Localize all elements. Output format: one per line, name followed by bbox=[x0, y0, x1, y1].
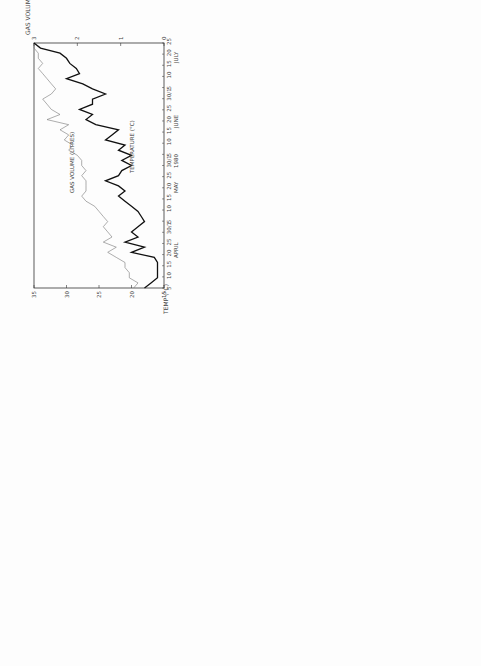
fig2-chart: 1520253035012351015202530/151015202530/1… bbox=[14, 18, 204, 318]
month-label: APRIL bbox=[173, 241, 179, 258]
x-tick-label: 10 bbox=[166, 138, 172, 145]
x-tick-label: 15 bbox=[166, 193, 172, 200]
gas-volume-annotation: GAS VOLUME (LITRES) bbox=[69, 132, 75, 193]
x-tick-label: 15 bbox=[166, 60, 172, 67]
right-axis-label: GAS VOLUME (LITRES) bbox=[24, 0, 31, 35]
document-page: 1520253035012351015202530/151015202530/1… bbox=[0, 0, 481, 666]
x-tick-label: 20 bbox=[166, 115, 172, 122]
year-label: 1980 bbox=[173, 154, 179, 168]
month-label: JULY bbox=[173, 51, 180, 64]
figure-4 bbox=[8, 350, 243, 660]
figure-5 bbox=[244, 330, 476, 630]
y-tick-label: 35 bbox=[31, 291, 37, 298]
y-tick-label: 25 bbox=[96, 291, 102, 298]
figure-3 bbox=[232, 18, 467, 318]
y-tick-label: 20 bbox=[129, 291, 135, 298]
x-tick-label: 10 bbox=[166, 71, 172, 78]
x-tick-label: 25 bbox=[166, 104, 172, 111]
month-label: JUNE bbox=[173, 114, 180, 129]
x-tick-label: 30/1 bbox=[166, 222, 172, 234]
x-tick-label: 25 bbox=[166, 238, 172, 245]
x-tick-label: 5 bbox=[166, 152, 172, 156]
temperature-annotation: TEMPERATURE (°C) bbox=[129, 120, 135, 174]
plot-frame bbox=[34, 43, 164, 288]
x-tick-label: 10 bbox=[166, 205, 172, 212]
x-tick-label: 30/1 bbox=[166, 88, 172, 100]
y-right-tick-label: 2 bbox=[74, 37, 80, 41]
x-tick-label: 25 bbox=[166, 38, 172, 45]
y-tick-label: 30 bbox=[64, 291, 70, 298]
temperature-line bbox=[34, 43, 158, 288]
x-tick-label: 20 bbox=[166, 182, 172, 189]
fig5-chart bbox=[244, 330, 476, 630]
x-tick-label: 5 bbox=[166, 86, 172, 90]
month-label: MAY bbox=[173, 181, 179, 193]
fig4-chart bbox=[8, 350, 243, 660]
x-tick-label: 10 bbox=[166, 271, 172, 278]
y-right-tick-label: 1 bbox=[118, 37, 124, 41]
x-tick-label: 20 bbox=[166, 249, 172, 256]
x-tick-label: 15 bbox=[166, 127, 172, 134]
left-axis-label: TEMP (°C) bbox=[162, 284, 169, 315]
x-tick-label: 30/1 bbox=[166, 155, 172, 167]
x-tick-label: 25 bbox=[166, 171, 172, 178]
x-tick-label: 20 bbox=[166, 49, 172, 56]
x-tick-label: 15 bbox=[166, 260, 172, 267]
fig3-chart bbox=[232, 18, 467, 318]
x-tick-label: 5 bbox=[166, 219, 172, 223]
gas-volume-line bbox=[34, 43, 138, 288]
figure-2: 1520253035012351015202530/151015202530/1… bbox=[14, 18, 204, 318]
y-right-tick-label: 3 bbox=[31, 36, 37, 40]
